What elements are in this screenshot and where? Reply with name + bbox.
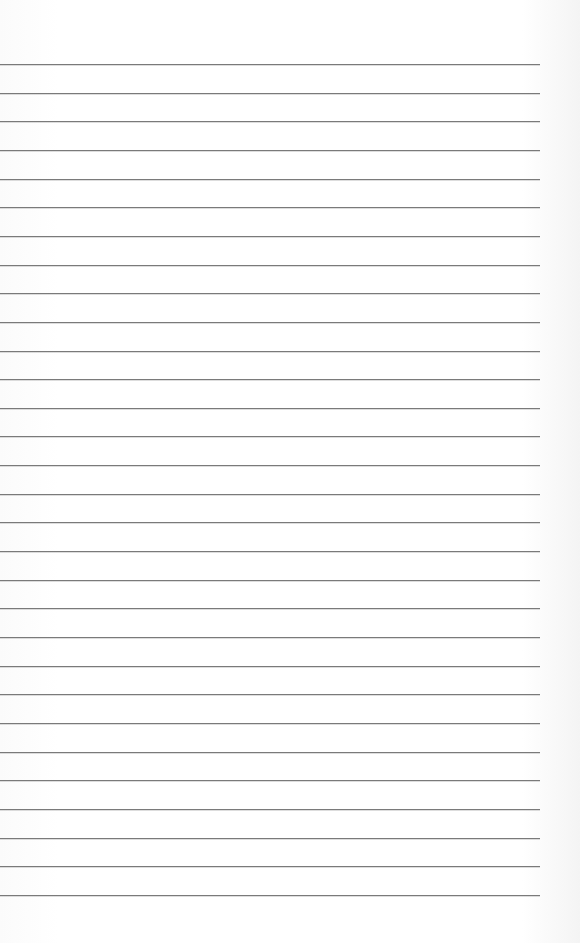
ruled-line xyxy=(0,121,540,122)
lined-paper-sheet xyxy=(0,0,580,943)
ruled-line xyxy=(0,207,540,208)
ruled-line xyxy=(0,666,540,667)
ruled-line xyxy=(0,408,540,409)
ruled-line xyxy=(0,436,540,437)
ruled-line xyxy=(0,465,540,466)
ruled-line xyxy=(0,522,540,523)
ruled-line xyxy=(0,293,540,294)
ruled-line xyxy=(0,64,540,65)
ruled-line xyxy=(0,351,540,352)
ruled-line xyxy=(0,637,540,638)
ruled-line xyxy=(0,895,540,896)
ruled-line xyxy=(0,608,540,609)
ruled-line xyxy=(0,809,540,810)
ruled-line xyxy=(0,752,540,753)
ruled-line xyxy=(0,866,540,867)
ruled-line xyxy=(0,580,540,581)
ruled-line xyxy=(0,322,540,323)
ruled-line xyxy=(0,723,540,724)
ruled-line xyxy=(0,93,540,94)
ruled-line xyxy=(0,780,540,781)
ruled-line xyxy=(0,179,540,180)
ruled-line xyxy=(0,694,540,695)
ruled-line xyxy=(0,494,540,495)
ruled-line xyxy=(0,236,540,237)
ruled-line xyxy=(0,838,540,839)
ruled-line xyxy=(0,551,540,552)
ruled-line xyxy=(0,150,540,151)
ruled-line xyxy=(0,379,540,380)
ruled-line xyxy=(0,265,540,266)
